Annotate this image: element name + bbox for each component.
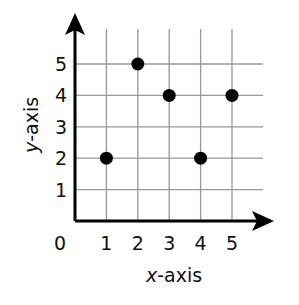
data-point [194,152,207,165]
x-tick-label: 3 [163,232,175,254]
y-tick-label: 5 [55,53,67,75]
x-tick-label: 4 [195,232,207,254]
x-tick-label: 0 [54,232,66,254]
y-tick-label: 1 [55,179,67,201]
y-tick-label: 3 [55,116,67,138]
data-point [131,58,144,71]
scatter-plot: 012345 12345 x-axis y-axis [0,0,299,305]
data-point [226,89,239,102]
x-tick-label: 1 [100,232,112,254]
data-point [100,152,113,165]
y-axis-label: y-axis [20,97,42,154]
grid-lines [75,29,263,221]
x-tick-label: 5 [226,232,238,254]
x-tick-label: 2 [132,232,144,254]
y-tick-labels: 12345 [55,53,67,201]
x-tick-labels: 012345 [54,232,238,254]
data-point [163,89,176,102]
y-tick-label: 4 [55,84,67,106]
y-tick-label: 2 [55,147,67,169]
x-axis-label: x-axis [145,264,202,286]
